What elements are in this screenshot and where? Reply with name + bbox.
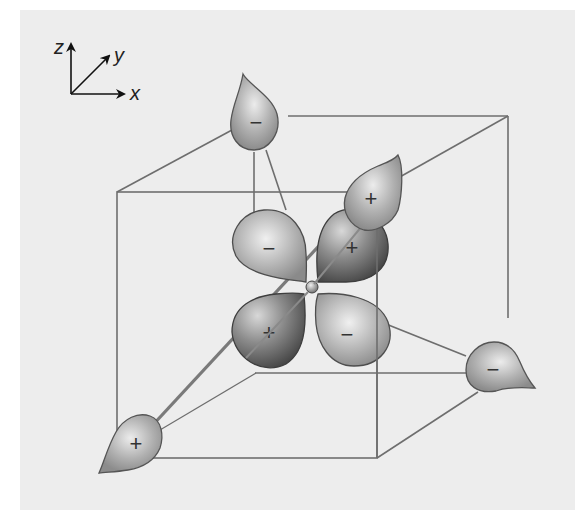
lobe-sign: − xyxy=(263,236,276,261)
z-axis-label: z xyxy=(53,36,64,58)
x-axis-label: x xyxy=(129,82,141,104)
y-axis-label: y xyxy=(112,44,125,66)
orbital-diagram: z y x − − xyxy=(0,0,587,524)
orbital-lobe-upper-left: − xyxy=(233,210,307,282)
ligand-top-right: + xyxy=(344,155,401,230)
ligand-sign: + xyxy=(130,431,143,456)
lobe-sign: − xyxy=(341,322,354,347)
y-axis-arrow xyxy=(71,56,109,94)
ligand-bottom-left: + xyxy=(99,415,162,473)
lobe-sign: + xyxy=(263,320,276,345)
axes-indicator: z y x xyxy=(53,36,141,104)
ligand-sign: − xyxy=(487,357,500,382)
ligand-sign: + xyxy=(365,186,378,211)
orbital-lobe-lower-left: + xyxy=(232,293,305,368)
ligand-sign: − xyxy=(250,110,263,135)
orbital-lobe-lower-right: − xyxy=(316,294,390,366)
ligand-top-left: − xyxy=(231,74,278,150)
ligand-right: − xyxy=(466,342,535,392)
